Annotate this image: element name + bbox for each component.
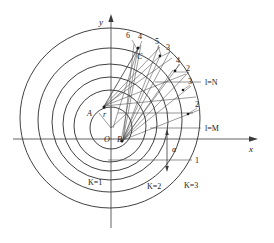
geometry-figure: y x O B A C r K=1 K=2 K=3 l=N l=M 6 4 5 … bbox=[0, 0, 274, 243]
circle-family-label-k3: K=3 bbox=[184, 181, 198, 190]
level-guides bbox=[108, 82, 201, 160]
ray-label-4-mid: 4 bbox=[176, 56, 180, 65]
y-axis-label: y bbox=[98, 17, 103, 27]
ray-bundle bbox=[99, 44, 199, 142]
point-label-C: C bbox=[137, 52, 143, 61]
leader-3a bbox=[162, 52, 170, 56]
circle-k2-inner bbox=[52, 64, 168, 180]
ray-a-5 bbox=[104, 97, 196, 106]
layer-label-ln: l=N bbox=[205, 78, 218, 87]
point-label-B: B bbox=[117, 135, 122, 144]
circle-k3 bbox=[20, 28, 200, 208]
circle-family-label-k1: K=1 bbox=[88, 178, 102, 187]
point-dot-mid1 bbox=[159, 55, 162, 58]
radius-label-r: r bbox=[103, 110, 107, 119]
alpha-arrow-bottom bbox=[165, 166, 169, 172]
point-dot-c bbox=[137, 47, 140, 50]
ray-label-4-top: 4 bbox=[138, 32, 142, 41]
point-label-O: O bbox=[104, 135, 110, 144]
circle-family-label-k2: K=2 bbox=[147, 182, 161, 191]
circle-k1-inner bbox=[74, 90, 146, 162]
alpha-arrow-top bbox=[165, 129, 169, 135]
ray-label-2-lower: 2 bbox=[195, 100, 199, 109]
point-dot-mid4 bbox=[187, 113, 190, 116]
leader-6 bbox=[132, 40, 137, 49]
ray-label-1: 1 bbox=[195, 156, 199, 165]
x-axis-label: x bbox=[248, 144, 253, 154]
ray-label-5: 5 bbox=[155, 37, 159, 46]
angle-label-alpha: α bbox=[172, 145, 177, 154]
ray-label-3-upper: 3 bbox=[166, 43, 170, 52]
concentric-circles bbox=[20, 28, 200, 208]
x-axis-arrowhead bbox=[249, 136, 258, 141]
ray-label-2-upper: 2 bbox=[186, 64, 190, 73]
ray-label-3-lower: 3 bbox=[188, 77, 192, 86]
layer-label-lm: l=M bbox=[205, 124, 219, 133]
y-axis-arrowhead bbox=[108, 14, 113, 22]
point-dot-mid2 bbox=[174, 70, 177, 73]
point-label-A: A bbox=[86, 109, 92, 118]
ray-label-6: 6 bbox=[126, 31, 130, 40]
point-dot-a bbox=[103, 106, 106, 109]
point-dot-mid3 bbox=[182, 89, 185, 92]
